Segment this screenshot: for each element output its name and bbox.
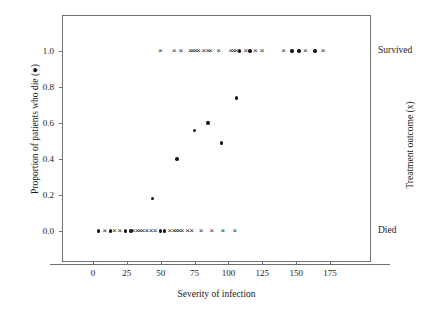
data-point-circle (248, 49, 251, 52)
y-tick-mark (59, 195, 63, 196)
data-point-circle (235, 96, 238, 99)
data-point-cross: × (303, 47, 308, 55)
data-point-circle (175, 157, 178, 160)
data-point-cross: × (172, 47, 177, 55)
data-point-cross: × (153, 227, 158, 235)
data-point-cross: × (233, 227, 238, 235)
x-axis-line (50, 264, 390, 265)
data-point-cross: × (260, 47, 265, 55)
data-point-cross: × (253, 47, 258, 55)
data-point-cross: × (189, 227, 194, 235)
data-point-circle (97, 229, 100, 232)
y-tick-mark (59, 87, 63, 88)
x-tick-label: 175 (310, 268, 350, 279)
data-point-cross: × (220, 227, 225, 235)
data-point-cross: × (158, 47, 163, 55)
right-axis-title: Treatment outcome (x) (405, 40, 415, 250)
x-tick-mark (93, 261, 94, 265)
data-point-cross: × (216, 47, 221, 55)
data-point-cross: × (196, 47, 201, 55)
data-point-cross: × (180, 227, 185, 235)
x-tick-mark (330, 261, 331, 265)
data-point-circle (313, 49, 316, 52)
data-point-cross: × (117, 227, 122, 235)
data-point-circle (109, 229, 112, 232)
chart-canvas: 0.00.20.40.60.81.0 0255075100125150175 ×… (0, 0, 433, 318)
data-point-circle (129, 229, 132, 232)
data-point-cross: × (178, 47, 183, 55)
y-tick-mark (59, 51, 63, 52)
data-point-cross: × (321, 47, 326, 55)
data-point-circle (220, 141, 223, 144)
x-tick-mark (127, 261, 128, 265)
category-label-died: Died (378, 225, 396, 235)
data-point-circle (290, 49, 293, 52)
data-point-cross: × (243, 47, 248, 55)
x-tick-mark (161, 261, 162, 265)
y-tick-mark (59, 123, 63, 124)
x-axis-title: Severity of infection (62, 289, 371, 299)
x-tick-mark (262, 261, 263, 265)
data-point-circle (238, 49, 241, 52)
data-point-cross: × (112, 227, 117, 235)
data-point-circle (124, 229, 127, 232)
y-axis-title: Proportion of patients who die (●) (30, 19, 40, 239)
data-point-cross: × (281, 47, 286, 55)
data-point-cross: × (210, 227, 215, 235)
x-tick-mark (296, 261, 297, 265)
data-point-cross: × (103, 227, 108, 235)
data-point-circle (206, 121, 209, 124)
x-tick-mark (228, 261, 229, 265)
data-point-cross: × (208, 47, 213, 55)
y-tick-mark (59, 231, 63, 232)
data-point-circle (297, 49, 300, 52)
x-tick-mark (195, 261, 196, 265)
data-point-cross: × (199, 227, 204, 235)
y-tick-mark (59, 159, 63, 160)
